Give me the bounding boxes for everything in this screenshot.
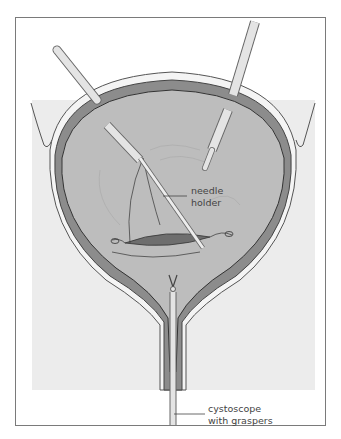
needle-holder-label-line2: holder [191,197,223,209]
cystoscope-label: cystoscope with graspers [208,403,273,427]
needle-holder-label: needle holder [191,185,223,209]
cystoscope-label-line2: with graspers [208,415,273,427]
bladder-illustration [0,0,341,439]
needle-holder-label-line1: needle [191,185,223,197]
cystoscope [169,275,177,425]
cystoscope-label-line1: cystoscope [208,403,273,415]
